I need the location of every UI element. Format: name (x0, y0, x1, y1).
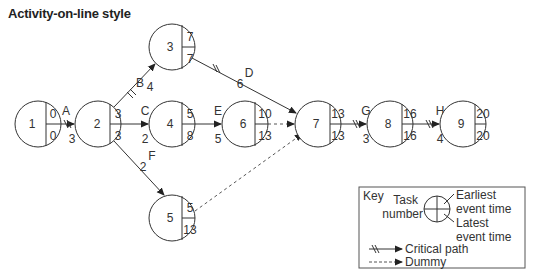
activity-duration: 3 (69, 132, 76, 146)
latest-time: 16 (403, 129, 417, 143)
key-earliest-label-1: Earliest (456, 188, 497, 202)
activity-label: F (148, 149, 155, 163)
key-latest-label-1: Latest (456, 216, 489, 230)
earliest-time: 3 (115, 107, 122, 121)
activity-label: D (245, 66, 254, 80)
earliest-time: 20 (476, 107, 490, 121)
key-task-label-2: number (382, 207, 423, 221)
key-legend: Key Task number Earliest event time Late… (359, 187, 525, 269)
node-8: 8 16 16 (367, 101, 417, 147)
task-number: 2 (94, 117, 101, 131)
activity-duration: 4 (147, 80, 154, 94)
latest-time: 13 (258, 129, 272, 143)
node-7: 7 13 13 (295, 101, 345, 147)
task-number: 8 (385, 117, 392, 131)
earliest-time: 0 (50, 107, 57, 121)
earliest-time: 16 (403, 107, 417, 121)
activity-b: B 4 (114, 64, 155, 107)
key-earliest-label-2: event time (456, 202, 512, 216)
activity-label: E (214, 104, 222, 118)
key-critical-path-label: Critical path (405, 242, 468, 256)
node-4: 4 5 8 (149, 101, 195, 147)
activity-label: B (136, 76, 144, 90)
task-number: 5 (167, 211, 174, 225)
activity-duration: 6 (237, 77, 244, 91)
activity-f: F 2 (114, 141, 164, 195)
activity-duration: 2 (140, 160, 147, 174)
activity-duration: 2 (142, 132, 149, 146)
node-5: 5 5 13 (149, 195, 197, 241)
task-number: 7 (313, 117, 320, 131)
activity-e: E 5 (195, 104, 222, 146)
key-task-label-1: Task (393, 193, 419, 207)
earliest-time: 5 (187, 107, 194, 121)
latest-time: 0 (50, 129, 57, 143)
latest-time: 8 (187, 129, 194, 143)
node-2: 2 3 3 (75, 101, 122, 147)
latest-time: 7 (187, 52, 194, 66)
activity-label: A (62, 104, 70, 118)
earliest-time: 5 (187, 201, 194, 215)
activity-a: A 3 (61, 104, 76, 146)
node-1: 1 0 0 (15, 101, 61, 147)
task-number: 9 (458, 117, 465, 131)
node-9: 9 20 20 (440, 101, 490, 147)
task-number: 3 (167, 40, 174, 54)
network-diagram: A 3 B 4 C 2 D 6 E 5 F 2 G 3 (0, 0, 534, 279)
activity-c: C 2 (121, 104, 150, 146)
task-number: 6 (240, 117, 247, 131)
task-number: 4 (167, 117, 174, 131)
activity-duration: 5 (215, 132, 222, 146)
key-title: Key (363, 189, 384, 203)
earliest-time: 13 (331, 107, 345, 121)
latest-time: 3 (115, 129, 122, 143)
node-3: 3 7 7 (149, 24, 195, 70)
activity-label: C (141, 104, 150, 118)
task-number: 1 (29, 117, 36, 131)
latest-time: 13 (183, 223, 197, 237)
critical-mark-icon (127, 92, 133, 98)
key-dummy-label: Dummy (405, 255, 446, 269)
activity-duration: 3 (363, 132, 370, 146)
node-6: 6 10 13 (222, 101, 272, 147)
earliest-time: 10 (258, 107, 272, 121)
latest-time: 20 (476, 129, 490, 143)
activity-g: G 3 (341, 104, 371, 146)
earliest-time: 7 (187, 30, 194, 44)
latest-time: 13 (331, 129, 345, 143)
